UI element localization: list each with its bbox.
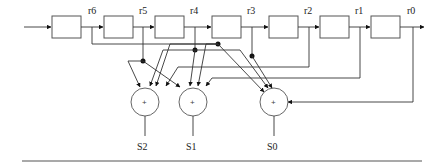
adder-s1: + S1 — [179, 88, 207, 152]
adder-s0: + S0 — [260, 88, 288, 152]
register-box-5 — [269, 16, 298, 38]
adder-s2: + S2 — [131, 88, 159, 152]
register-box-3 — [155, 16, 184, 38]
label-s2: S2 — [137, 141, 148, 152]
label-r3: r3 — [247, 5, 255, 16]
label-s1: S1 — [186, 141, 197, 152]
register-box-7 — [371, 16, 400, 38]
label-s0: S0 — [267, 141, 278, 152]
svg-text:+: + — [190, 98, 195, 107]
label-r5: r5 — [139, 5, 147, 16]
register-box-4 — [212, 16, 241, 38]
register-box-1 — [52, 16, 81, 38]
svg-text:+: + — [271, 98, 276, 107]
label-r2: r2 — [304, 5, 312, 16]
label-r1: r1 — [355, 5, 363, 16]
label-r6: r6 — [88, 5, 96, 16]
svg-text:+: + — [142, 98, 147, 107]
label-r0: r0 — [407, 5, 415, 16]
register-box-2 — [104, 16, 133, 38]
label-r4: r4 — [190, 5, 198, 16]
shift-register-diagram: r6 r5 r4 r3 r2 r1 r0 + S2 + S1 + — [0, 0, 443, 168]
register-box-6 — [320, 16, 349, 38]
